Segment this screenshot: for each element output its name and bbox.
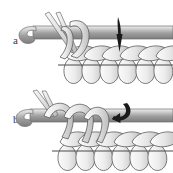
panel-a-illustration bbox=[0, 0, 173, 87]
panel-b: b bbox=[0, 87, 173, 173]
crochet-instruction-figure: a bbox=[0, 0, 173, 173]
crochet-hook bbox=[19, 26, 173, 44]
top-chain-row bbox=[60, 132, 173, 147]
stitch-post-row bbox=[64, 58, 173, 84]
stitch-post-row bbox=[58, 145, 167, 171]
panel-b-illustration bbox=[0, 87, 173, 173]
panel-a: a bbox=[0, 0, 173, 87]
